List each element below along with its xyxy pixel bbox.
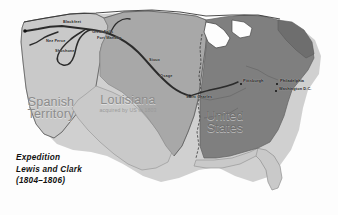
route-terminus-marker [23, 29, 27, 33]
route-start-marker [188, 94, 191, 97]
legend-line-names: Lewis and Clark [16, 164, 82, 176]
legend-line-expedition: Expedition [16, 152, 82, 164]
map-legend: Expedition Lewis and Clark (1804–1806) [16, 152, 82, 187]
legend-line-years: (1804–1806) [16, 175, 82, 187]
map-container: Spanish Territory Louisiana acquired by … [0, 0, 338, 215]
